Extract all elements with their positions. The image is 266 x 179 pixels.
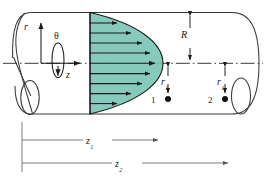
pipe-left-endcap-group bbox=[21, 81, 39, 115]
label-r-axis: r bbox=[24, 22, 28, 32]
label-pipe-radius-R: R bbox=[181, 30, 187, 40]
label-theta-axis: θ bbox=[54, 31, 59, 41]
point-2-marker bbox=[222, 96, 228, 102]
pipe-left-endcap-ellipse bbox=[21, 81, 39, 115]
point-1-marker bbox=[165, 96, 171, 102]
label-point-1: 1 bbox=[151, 96, 156, 105]
pipe-right-endcap-ellipse bbox=[232, 78, 251, 114]
axial-dimensions bbox=[22, 122, 228, 172]
label-distance-z2: z2 bbox=[115, 159, 122, 171]
label-point-2: 2 bbox=[208, 96, 213, 105]
label-radius-r1-point1: r1 bbox=[161, 77, 168, 89]
label-radius-r1-point2: r1 bbox=[217, 77, 224, 89]
figure-canvas bbox=[0, 0, 266, 179]
coordinate-axes bbox=[41, 23, 80, 63]
pipe-flow-figure: r θ z R r1 r1 1 2 z1 z2 bbox=[0, 0, 266, 179]
label-distance-z1: z1 bbox=[86, 136, 93, 148]
pipe-right-endcap-group bbox=[232, 78, 251, 114]
theta-rotation-loop bbox=[52, 43, 64, 78]
pipe-left-upper-edge bbox=[13, 13, 30, 59]
label-z-axis: z bbox=[66, 70, 70, 80]
